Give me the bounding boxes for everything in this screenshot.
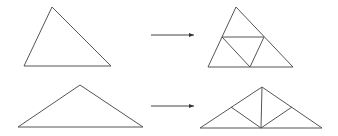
row-1 (24, 7, 293, 67)
subdivision-edge (250, 37, 264, 67)
subdivision-edge (231, 107, 261, 128)
source-triangle (18, 85, 143, 127)
diagram-canvas (0, 0, 338, 136)
source-triangle (24, 7, 111, 66)
diagram-svg (0, 0, 338, 136)
subdivision-edge (222, 37, 250, 67)
subdivision-edge (261, 87, 262, 128)
subdivision-edge (261, 107, 292, 128)
row-2 (18, 85, 322, 128)
